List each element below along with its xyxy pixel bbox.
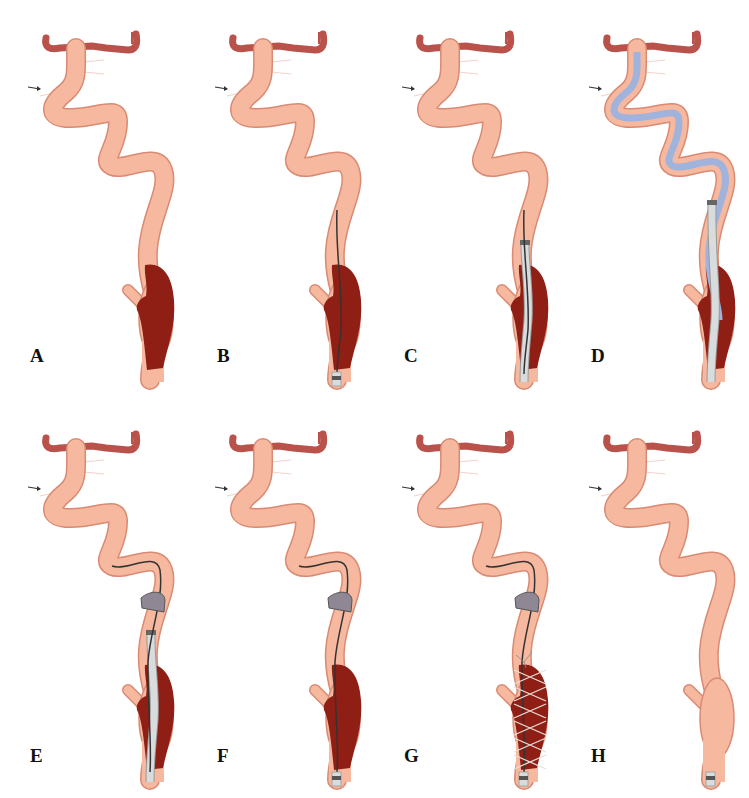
bifurcation (46, 434, 137, 450)
panel-h: H (561, 400, 748, 790)
panel-label-f: F (217, 745, 229, 767)
panel-c: C (374, 0, 561, 390)
panel-label-h: H (591, 745, 606, 767)
arrow-icon (598, 486, 602, 491)
bifurcation (233, 434, 324, 450)
arrow-icon (598, 86, 602, 91)
panel-label-c: C (404, 345, 418, 367)
bifurcation (46, 34, 137, 50)
panel-g: G (374, 400, 561, 790)
panel-a: A (0, 0, 187, 390)
bifurcation (420, 434, 511, 450)
bifurcation (233, 34, 324, 50)
panel-label-g: G (404, 745, 419, 767)
panel-e: E (0, 400, 187, 790)
panel-b: B (187, 0, 374, 390)
bifurcation (607, 34, 698, 50)
arrow-icon (411, 486, 415, 491)
panel-label-e: E (30, 745, 43, 767)
bifurcation (420, 34, 511, 50)
arrow-icon (224, 86, 228, 91)
arrow-icon (37, 86, 41, 91)
panel-label-d: D (591, 345, 605, 367)
bifurcation (607, 434, 698, 450)
panel-d: D (561, 0, 748, 390)
panel-f: F (187, 400, 374, 790)
panel-label-b: B (217, 345, 230, 367)
arrow-icon (224, 486, 228, 491)
arrow-icon (411, 86, 415, 91)
arrow-icon (37, 486, 41, 491)
panel-label-a: A (30, 345, 44, 367)
